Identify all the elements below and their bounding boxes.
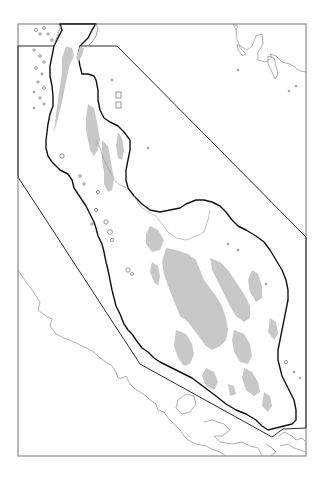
- neighbor-coastline-southeast: [266, 432, 306, 456]
- neighbor-island-sw: [176, 394, 196, 414]
- map-canvas: [0, 0, 324, 477]
- neighbor-coastline-south: [204, 420, 262, 456]
- neighbor-island-ne2: [237, 44, 246, 56]
- neighbor-coastline-northeast: [233, 24, 306, 72]
- peninsula-landmass: [46, 24, 296, 430]
